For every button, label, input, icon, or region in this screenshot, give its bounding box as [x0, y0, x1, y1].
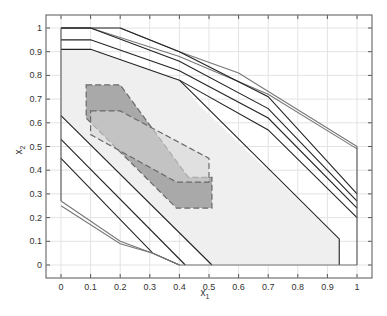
y-tick-label: 0.4: [29, 165, 42, 175]
x-tick-label: 0.3: [144, 282, 157, 292]
y-tick-label: 0.8: [29, 70, 42, 80]
x-tick-label: 0.8: [292, 282, 305, 292]
chart: 00.10.20.30.40.50.60.70.80.9100.10.20.30…: [0, 0, 387, 316]
y-tick-label: 0: [37, 260, 42, 270]
y-tick-label: 0.9: [29, 47, 42, 57]
x-tick-label: 0: [58, 282, 63, 292]
y-tick-label: 1: [37, 23, 42, 33]
x-tick-label: 0.4: [173, 282, 186, 292]
x-tick-label: 1: [354, 282, 359, 292]
x-tick-label: 0.1: [84, 282, 97, 292]
y-tick-label: 0.2: [29, 213, 42, 223]
x-tick-label: 0.6: [232, 282, 245, 292]
y-tick-label: 0.5: [29, 142, 42, 152]
y-tick-label: 0.6: [29, 118, 42, 128]
x-tick-label: 0.2: [114, 282, 127, 292]
x-tick-label: 0.7: [262, 282, 275, 292]
y-tick-label: 0.7: [29, 94, 42, 104]
x-tick-label: 0.9: [321, 282, 334, 292]
y-tick-label: 0.3: [29, 189, 42, 199]
y-axis-label: x2: [13, 145, 26, 154]
y-tick-label: 0.1: [29, 236, 42, 246]
